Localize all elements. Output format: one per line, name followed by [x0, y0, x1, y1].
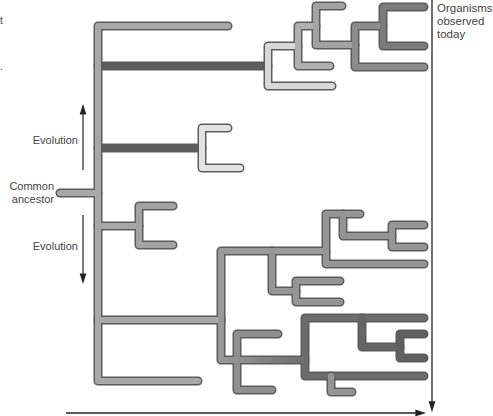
evolution-down-arrow	[81, 215, 86, 282]
organisms-label-line3: today	[437, 28, 493, 41]
cropped-text-fragment: t	[0, 14, 3, 27]
organisms-observed-today-label: Organisms observed today	[437, 2, 493, 41]
cropped-text-fragment: .	[0, 60, 3, 73]
evolution-up-arrow	[81, 106, 86, 170]
common-ancestor-line1: Common	[0, 180, 54, 193]
evolution-up-label: Evolution	[20, 134, 78, 147]
common-ancestor-line2: ancestor	[0, 193, 54, 206]
organisms-label-line1: Organisms	[437, 2, 493, 15]
horizontal-axis-arrow	[66, 411, 424, 416]
evolution-down-label: Evolution	[20, 240, 78, 253]
vertical-axis-arrow	[430, 0, 435, 410]
organisms-label-line2: observed	[437, 15, 493, 28]
common-ancestor-label: Common ancestor	[0, 180, 54, 206]
